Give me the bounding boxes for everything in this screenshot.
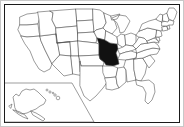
state-OR[interactable] <box>18 24 40 37</box>
state-FL[interactable] <box>136 80 155 104</box>
state-SD[interactable] <box>77 20 94 33</box>
island-oahu[interactable] <box>49 91 51 93</box>
us-map-svg <box>0 0 184 127</box>
state-AR[interactable] <box>103 66 118 78</box>
island-maui[interactable] <box>54 94 56 96</box>
state-IN[interactable] <box>117 34 126 47</box>
state-KS[interactable] <box>78 41 99 56</box>
state-AK-aleutians[interactable] <box>31 111 45 121</box>
us-states-map-figure: Outline map of the United States with Mi… <box>0 0 184 127</box>
state-AK[interactable] <box>9 89 46 119</box>
island-molokai[interactable] <box>52 92 54 94</box>
state-CT[interactable] <box>162 26 168 31</box>
island-kauai[interactable] <box>46 89 48 91</box>
state-WY[interactable] <box>56 26 78 43</box>
state-MS[interactable] <box>116 67 126 88</box>
state-WA[interactable] <box>20 12 40 25</box>
island-hawaii[interactable] <box>56 96 60 100</box>
state-ND[interactable] <box>76 9 93 21</box>
